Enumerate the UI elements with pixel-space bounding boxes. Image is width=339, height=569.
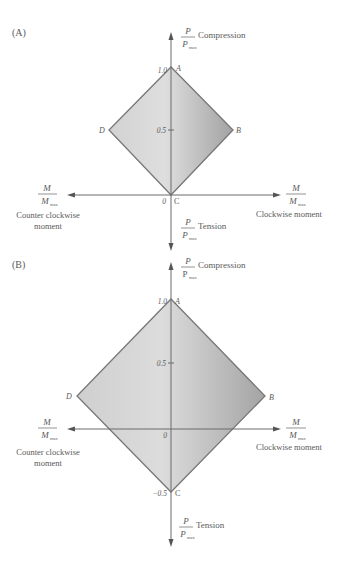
arrow-left-icon [67, 427, 75, 432]
svg-text:Compression: Compression [198, 30, 246, 40]
svg-text:moment: moment [34, 458, 62, 468]
svg-text:P: P [182, 269, 187, 279]
point-a: A [175, 64, 181, 73]
svg-text:M: M [42, 183, 51, 193]
svg-text:Clockwise moment: Clockwise moment [256, 209, 323, 219]
tick-label-mid: 0.5 [157, 359, 167, 368]
y-axis-bottom-label: P P max Tension [179, 516, 225, 540]
point-a: A [174, 297, 180, 306]
point-c: C [175, 489, 180, 498]
svg-text:Counter clockwise: Counter clockwise [16, 447, 80, 457]
point-c: C [174, 197, 179, 206]
arrow-up-icon [169, 32, 174, 40]
tick-label-bottom: −0.5 [153, 489, 168, 498]
svg-text:M: M [291, 183, 300, 193]
y-axis-top-label: P P max Compression [181, 256, 246, 280]
panel-b: (B) 1.0 0.5 0 −0.5 A B C D P P max Compr… [12, 256, 323, 547]
svg-text:P: P [181, 39, 188, 49]
svg-text:P: P [184, 256, 191, 266]
interaction-diagrams: (A) 1.0 0.5 0 A B C D P P max Compressio… [0, 0, 339, 569]
svg-text:Clockwise moment: Clockwise moment [256, 442, 323, 452]
arrow-right-icon [273, 193, 281, 198]
svg-text:max: max [189, 236, 197, 241]
y-axis-top-label: P P max Compression [181, 26, 246, 50]
svg-text:P: P [181, 230, 188, 240]
panel-a-label: (A) [12, 27, 26, 39]
x-axis-right-label: M M max Clockwise moment [256, 417, 323, 452]
y-axis-bottom-label: P P max Tension [181, 217, 227, 241]
arrow-down-icon [169, 243, 174, 251]
svg-text:M: M [42, 417, 51, 427]
svg-text:M: M [40, 196, 49, 206]
tick-label-top: 1.0 [158, 297, 168, 306]
svg-text:max: max [187, 535, 195, 540]
tick-label-mid: 0.5 [157, 126, 167, 135]
svg-text:P: P [182, 516, 189, 526]
svg-text:Compression: Compression [198, 260, 246, 270]
arrow-left-icon [67, 193, 75, 198]
svg-text:max: max [50, 436, 58, 441]
svg-text:max: max [189, 275, 197, 280]
panel-a: (A) 1.0 0.5 0 A B C D P P max Compressio… [12, 26, 323, 251]
svg-text:Counter clockwise: Counter clockwise [16, 210, 80, 220]
svg-text:M: M [291, 417, 300, 427]
x-axis-right-label: M M max Clockwise moment [256, 183, 323, 219]
arrow-down-icon [169, 539, 174, 547]
x-axis-left-label: M M max Counter clockwise moment [16, 417, 80, 468]
arrow-right-icon [273, 427, 281, 432]
svg-text:max: max [298, 436, 306, 441]
svg-text:P: P [184, 217, 191, 227]
panel-b-label: (B) [12, 259, 25, 271]
svg-text:max: max [189, 45, 197, 50]
svg-text:P: P [184, 26, 191, 36]
svg-text:M: M [288, 196, 297, 206]
arrow-up-icon [169, 262, 174, 270]
tick-label-origin: 0 [163, 431, 167, 440]
svg-text:M: M [288, 430, 297, 440]
point-b: B [236, 126, 241, 135]
svg-text:max: max [50, 202, 58, 207]
x-axis-left-label: M M max Counter clockwise moment [16, 183, 80, 231]
svg-text:Tension: Tension [198, 221, 227, 231]
svg-text:moment: moment [34, 221, 62, 231]
svg-text:Tension: Tension [196, 520, 225, 530]
tick-label-top: 1.0 [158, 66, 168, 75]
point-b: B [269, 393, 274, 402]
svg-text:P: P [179, 529, 186, 539]
svg-text:M: M [40, 430, 49, 440]
point-d: D [98, 126, 105, 135]
tick-label-origin: 0 [162, 197, 166, 206]
svg-text:max: max [298, 202, 306, 207]
point-d: D [65, 392, 72, 401]
